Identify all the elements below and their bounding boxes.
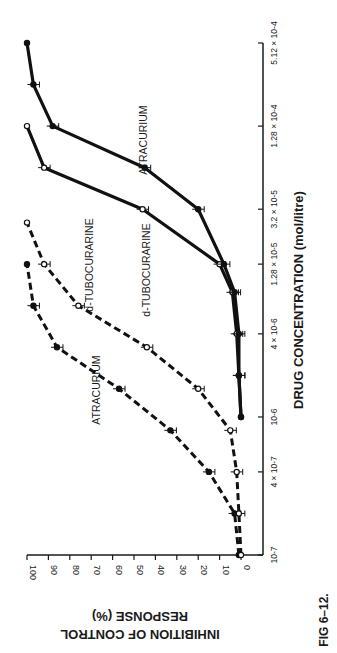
dose-response-figure: 010203040506070809010010-74 × 10-710-64 … <box>0 0 337 653</box>
y-axis-title-line2: RESPONSE (%) <box>92 609 188 624</box>
percent-tick-label: 60 <box>114 565 124 575</box>
filled-marker <box>236 373 241 378</box>
open-marker <box>76 303 81 308</box>
concentration-tick-label: 5.12 × 10-4 <box>269 21 279 65</box>
x-axis-title: DRUG CONCENTRATION (mol/litre) <box>291 191 306 409</box>
percent-tick-label: 80 <box>71 565 81 575</box>
open-marker <box>24 124 29 129</box>
filled-marker <box>238 414 243 419</box>
filled-marker <box>24 40 29 45</box>
percent-tick-label: 90 <box>49 565 59 575</box>
y-axis-title-line1: INHIBITION OF CONTROL <box>60 627 220 642</box>
open-marker <box>238 552 243 557</box>
percent-tick-label: 100 <box>28 565 38 580</box>
filled-marker <box>31 303 36 308</box>
filled-marker <box>54 345 59 350</box>
open-marker <box>144 345 149 350</box>
series-line-2 <box>27 126 241 417</box>
open-marker <box>24 220 29 225</box>
series-label: ATRACURIUM <box>90 355 102 424</box>
open-marker <box>234 469 239 474</box>
concentration-tick-label: 1.28 × 10-4 <box>269 104 279 148</box>
filled-marker <box>221 262 226 267</box>
filled-marker <box>116 386 121 391</box>
percent-tick-label: 70 <box>92 565 102 575</box>
series-label: d-TUBOCURARINE <box>140 223 152 316</box>
filled-marker <box>206 469 211 474</box>
concentration-tick-label: 10-6 <box>269 408 279 425</box>
concentration-tick-label: 3.2 × 10-5 <box>269 190 279 229</box>
open-marker <box>228 428 233 433</box>
concentration-tick-label: 10-7 <box>269 546 279 563</box>
percent-tick-label: 20 <box>199 565 209 575</box>
series-label: ATRACURIUM <box>137 105 149 174</box>
series-line-1 <box>27 223 241 555</box>
filled-marker <box>31 82 36 87</box>
filled-marker <box>24 262 29 267</box>
dose-response-chart: 010203040506070809010010-74 × 10-710-64 … <box>0 0 337 653</box>
open-marker <box>140 207 145 212</box>
series-line-3 <box>27 43 241 417</box>
concentration-tick-label: 1.28 × 10-5 <box>269 242 279 286</box>
series-label: d-TUBOCURARINE <box>83 218 95 311</box>
filled-marker <box>50 124 55 129</box>
percent-tick-label: 40 <box>156 565 166 575</box>
open-marker <box>42 165 47 170</box>
open-marker <box>42 262 47 267</box>
percent-tick-label: 50 <box>135 565 145 575</box>
concentration-tick-label: 4 × 10-6 <box>269 318 279 350</box>
filled-marker <box>196 207 201 212</box>
axes: 010203040506070809010010-74 × 10-710-64 … <box>27 21 279 580</box>
filled-marker <box>236 331 241 336</box>
open-marker <box>236 511 241 516</box>
open-marker <box>196 386 201 391</box>
percent-tick-label: 30 <box>178 565 188 575</box>
concentration-tick-label: 4 × 10-7 <box>269 456 279 488</box>
percent-tick-label: 10 <box>221 565 231 575</box>
percent-tick-label: 0 <box>242 565 252 570</box>
filled-marker <box>168 428 173 433</box>
series-group <box>24 40 244 557</box>
figure-caption: FIG 6–12. <box>317 593 331 646</box>
filled-marker <box>232 290 237 295</box>
series-line-0 <box>27 264 239 555</box>
